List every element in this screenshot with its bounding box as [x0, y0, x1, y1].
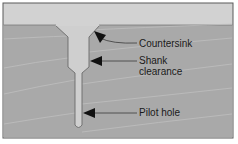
label-pilot-hole: Pilot hole [139, 107, 180, 118]
label-countersink: Countersink [139, 38, 192, 49]
wood-block [4, 25, 233, 138]
diagram-canvas [0, 0, 238, 144]
countersink-diagram: Countersink Shank clearance Pilot hole [0, 0, 238, 144]
label-shank: Shank [139, 55, 167, 66]
label-clearance: clearance [139, 66, 182, 77]
hole-opening [56, 23, 100, 26]
